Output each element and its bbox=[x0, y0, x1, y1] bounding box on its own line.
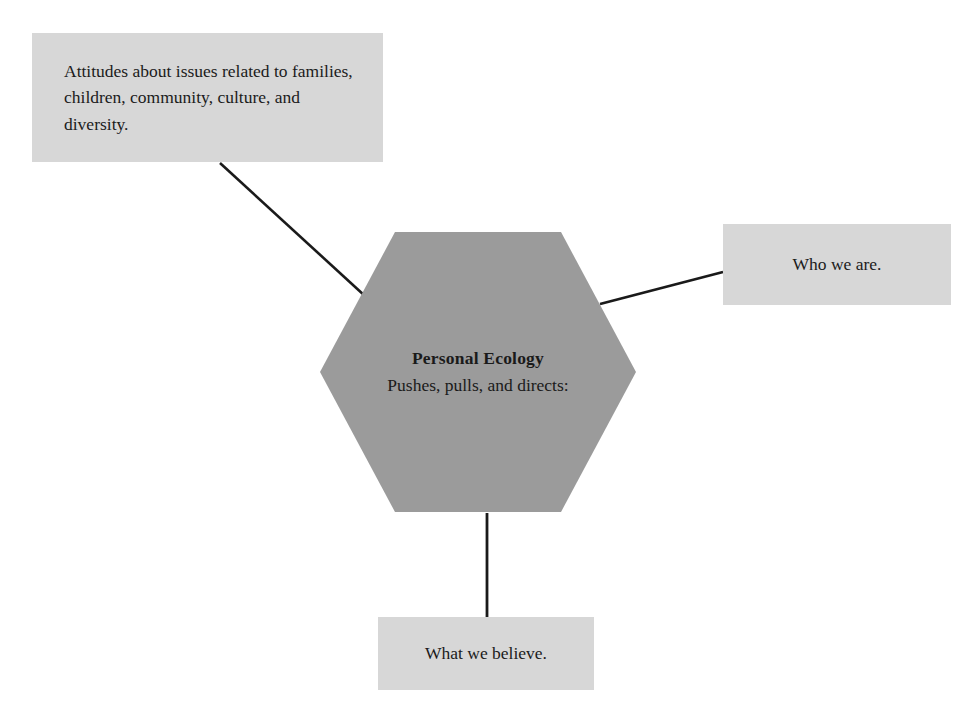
node-who-we-are-label: Who we are. bbox=[793, 251, 882, 278]
node-who-we-are: Who we are. bbox=[723, 224, 951, 305]
node-attitudes-label: Attitudes about issues related to famili… bbox=[64, 58, 361, 138]
central-hexagon-subtitle: Pushes, pulls, and directs: bbox=[387, 373, 568, 398]
node-attitudes: Attitudes about issues related to famili… bbox=[32, 33, 383, 162]
node-what-we-believe: What we believe. bbox=[378, 617, 594, 690]
personal-ecology-diagram: Attitudes about issues related to famili… bbox=[0, 0, 958, 725]
central-hexagon: Personal Ecology Pushes, pulls, and dire… bbox=[319, 231, 637, 513]
node-what-we-believe-label: What we believe. bbox=[425, 640, 547, 667]
central-hexagon-title: Personal Ecology bbox=[412, 346, 544, 371]
central-hexagon-label: Personal Ecology Pushes, pulls, and dire… bbox=[319, 231, 637, 513]
